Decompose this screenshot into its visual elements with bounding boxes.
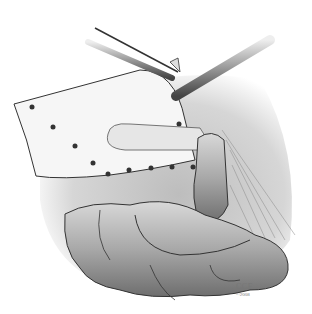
- copyright-year: ©2008: [236, 292, 250, 297]
- bowel-segment-pale: [107, 124, 205, 150]
- mesh-sheet: [14, 70, 195, 178]
- illustration-drawing: [0, 0, 312, 314]
- copyright-credit: CCF: [236, 282, 253, 291]
- bowel-descending: [194, 133, 228, 222]
- medical-illustration: CCF ©2008: [0, 0, 312, 314]
- forceps-instrument: [88, 28, 180, 78]
